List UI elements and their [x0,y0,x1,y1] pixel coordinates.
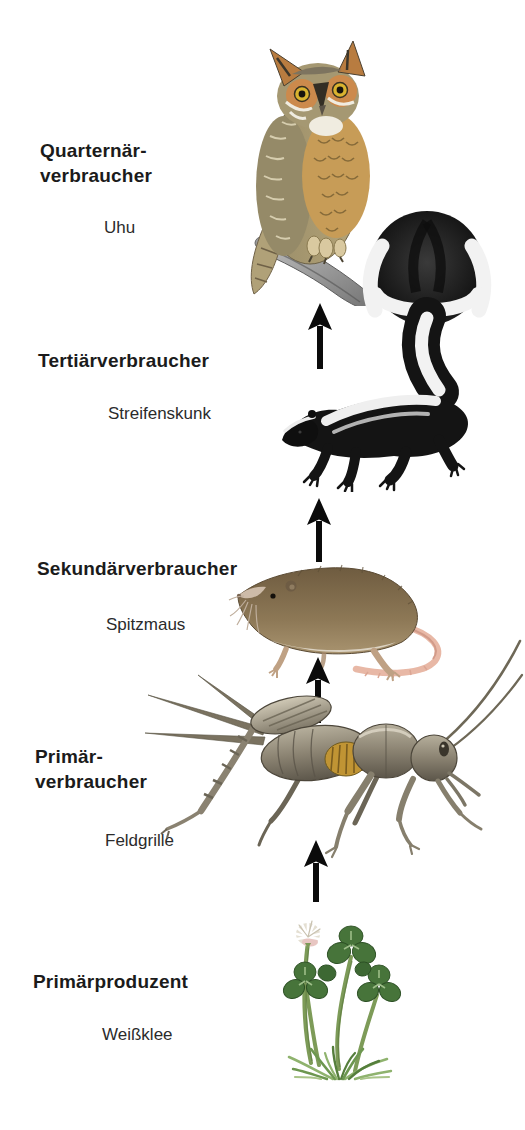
role-line: verbraucher [35,769,147,794]
cricket-thorax [353,724,419,778]
arrow-weissklee-to-feldgrille [302,840,330,902]
clover-stem-shading [306,945,352,1067]
role-line: verbraucher [40,163,152,188]
organism-label-weissklee: Weißklee [102,1025,173,1045]
level-label-secondary-consumer: Sekundärverbraucher [37,556,237,581]
organism-label-uhu: Uhu [104,218,135,238]
organism-label-spitzmaus: Spitzmaus [106,615,185,635]
role-line: Tertiärverbraucher [38,348,209,373]
cricket-near-legs [326,775,481,857]
white-clover-illustration [275,911,409,1085]
arrow-spitzmaus-to-streifenskunk [305,498,333,562]
skunk-tail [370,211,484,392]
role-line: Primär- [35,744,147,769]
level-label-primary-producer: Primärproduzent [33,969,188,994]
owl-eye [337,87,344,94]
owl-eye [299,91,306,98]
clover-flower [293,920,323,949]
role-line: Sekundärverbraucher [37,556,237,581]
level-label-tertiary-consumer: Tertiärverbraucher [38,348,209,373]
organism-label-streifenskunk: Streifenskunk [108,404,211,424]
cricket-eye [439,742,449,757]
level-label-quaternary-consumer: Quarternär- verbraucher [40,138,152,188]
field-cricket-illustration [143,633,525,865]
food-chain-diagram: Quarternär- verbraucher Uhu [0,0,525,1130]
role-line: Quarternär- [40,138,152,163]
striped-skunk-illustration [276,208,525,492]
role-line: Primärproduzent [33,969,188,994]
level-label-primary-consumer: Primär- verbraucher [35,744,147,794]
cricket-far-legs [259,771,378,845]
